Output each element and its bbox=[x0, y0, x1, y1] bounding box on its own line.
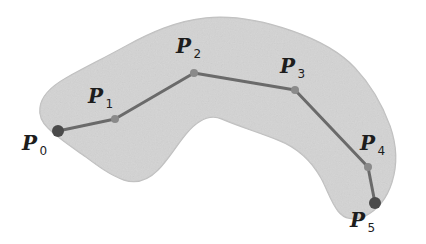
control-point-p3 bbox=[291, 86, 299, 94]
point-label-p2-glyph: P bbox=[176, 34, 192, 58]
control-point-p1 bbox=[111, 115, 119, 123]
point-label-p5-subscript: 5 bbox=[368, 221, 376, 235]
control-point-p5 bbox=[369, 197, 381, 209]
point-label-p5-glyph: P bbox=[350, 208, 366, 232]
point-label-p4: P4 bbox=[360, 133, 383, 153]
point-label-p1-glyph: P bbox=[88, 84, 104, 108]
control-point-p4 bbox=[364, 163, 372, 171]
point-label-p1: P1 bbox=[88, 86, 111, 106]
point-label-p2-subscript: 2 bbox=[194, 47, 202, 61]
figure-canvas: P0 P1 P2 P3 P4 P5 bbox=[0, 0, 426, 244]
point-label-p3: P3 bbox=[280, 56, 303, 76]
point-label-p5: P5 bbox=[350, 210, 373, 230]
point-label-p4-subscript: 4 bbox=[378, 144, 386, 158]
point-label-p2: P2 bbox=[176, 36, 199, 56]
point-label-p0: P0 bbox=[22, 133, 45, 153]
point-label-p1-subscript: 1 bbox=[106, 97, 114, 111]
point-label-p0-subscript: 0 bbox=[40, 144, 48, 158]
point-label-p4-glyph: P bbox=[360, 131, 376, 155]
control-point-p0 bbox=[52, 125, 64, 137]
point-label-p3-glyph: P bbox=[280, 54, 296, 78]
blob-region-group bbox=[40, 17, 396, 218]
control-point-p2 bbox=[190, 69, 198, 77]
point-label-p0-glyph: P bbox=[22, 131, 38, 155]
point-label-p3-subscript: 3 bbox=[298, 67, 306, 81]
